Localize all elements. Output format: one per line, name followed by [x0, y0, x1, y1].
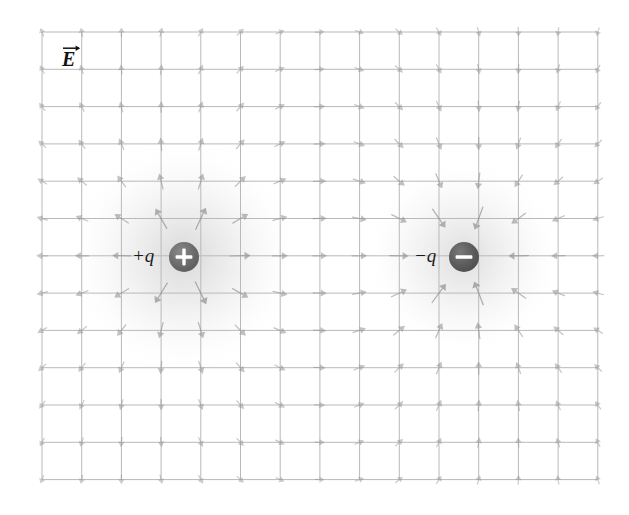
vector-arrow-accent-icon	[62, 44, 84, 51]
field-vector-arrow	[595, 28, 601, 36]
field-vector-arrow	[118, 475, 124, 484]
electric-dipole-field-figure: E +q −q	[0, 0, 629, 515]
field-vector-arrow	[36, 252, 47, 259]
field-vector-arrow	[475, 64, 481, 74]
field-vector-arrow	[475, 101, 482, 112]
field-vector-arrow	[315, 439, 325, 445]
field-vector-arrow	[475, 399, 482, 410]
field-vector-arrow	[315, 402, 326, 409]
field-vector-arrow	[515, 475, 521, 484]
positive-charge-label: +q	[132, 245, 154, 267]
field-vector-arrow	[315, 476, 324, 482]
minus-icon	[456, 255, 473, 258]
field-vector-arrow	[475, 437, 481, 447]
field-vector-arrow	[515, 437, 521, 447]
positive-charge	[169, 242, 199, 272]
field-symbol-label: E	[62, 44, 84, 71]
field-vector-arrow	[118, 437, 124, 447]
field-vector-arrow	[515, 27, 521, 36]
negative-charge	[449, 242, 479, 272]
field-vector-arrow	[592, 252, 604, 259]
field-vector-arrow	[158, 101, 165, 112]
field-vector-arrow	[515, 101, 521, 112]
field-vector-arrow	[555, 475, 561, 484]
field-vector-arrow	[118, 64, 124, 74]
field-vector-arrow	[315, 66, 325, 72]
field-vector-arrow	[158, 437, 164, 447]
field-vector-arrow	[314, 141, 326, 148]
field-vector-arrow	[595, 476, 601, 484]
field-vector-canvas	[0, 0, 629, 515]
field-vector-arrow	[315, 103, 326, 110]
field-vector-arrow	[158, 64, 164, 74]
field-vector-arrow	[515, 64, 521, 74]
field-vector-arrow	[158, 399, 165, 410]
field-symbol-text: E	[62, 48, 75, 70]
field-vector-arrow	[79, 28, 85, 37]
field-vector-arrow	[314, 364, 326, 371]
negative-charge-label: −q	[414, 245, 436, 267]
field-vector-arrow	[555, 28, 561, 37]
field-vector-arrow	[315, 29, 324, 35]
plus-icon-vertical-stroke	[182, 249, 185, 266]
field-vector-arrow	[118, 27, 124, 36]
